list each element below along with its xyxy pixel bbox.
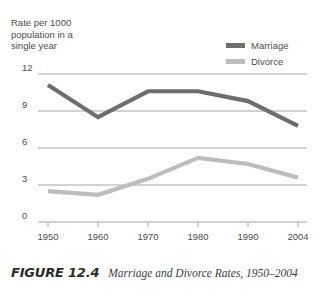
y-tick-label: 0 [22, 211, 27, 221]
figure-container: Rate per 1000 population in a single yea… [0, 0, 326, 307]
y-tick-label: 9 [22, 100, 27, 110]
x-axis-ticks [48, 222, 298, 227]
y-tick-label: 3 [22, 174, 27, 184]
data-series-group [48, 85, 298, 195]
caption-figure-number: FIGURE 12.4 [11, 265, 99, 280]
caption-text: Marriage and Divorce Rates, 1950–2004 [108, 267, 298, 279]
y-tick-label: 12 [22, 63, 33, 73]
x-tick-label: 1970 [128, 232, 168, 242]
x-tick-label: 1960 [78, 232, 118, 242]
x-tick-label: 2004 [278, 232, 318, 242]
plot-area: 036912 195019601970198019902004 [0, 0, 326, 250]
y-tick-label: 6 [22, 137, 27, 147]
figure-caption: FIGURE 12.4Marriage and Divorce Rates, 1… [11, 264, 321, 282]
gridlines [38, 74, 307, 222]
x-tick-label: 1990 [228, 232, 268, 242]
x-tick-label: 1950 [28, 232, 68, 242]
series-line-marriage [48, 85, 298, 126]
chart-svg [0, 0, 326, 250]
series-line-divorce [48, 158, 298, 195]
x-tick-label: 1980 [178, 232, 218, 242]
